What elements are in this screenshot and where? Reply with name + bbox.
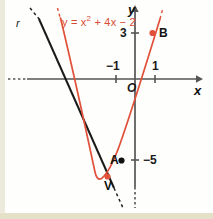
point-label-A: A xyxy=(110,154,119,166)
line-r-dashed-top xyxy=(30,8,40,20)
point-A-marker xyxy=(118,157,124,163)
equation-rhs: + 4x − 2 xyxy=(91,16,136,28)
origin-label: O xyxy=(127,82,136,94)
parabola-dashed-tail-right xyxy=(160,8,163,19)
graph-figure: y = x2 + 4x − 2 y x O −1 1 3 −5 A B V r xyxy=(0,0,213,219)
equation-lhs: y = x xyxy=(62,16,87,28)
x-axis-label: x xyxy=(194,84,201,97)
line-r-dashed-bottom xyxy=(114,188,123,208)
point-B-marker xyxy=(149,30,155,36)
y-axis-label: y xyxy=(128,3,135,16)
x-axis-arrow xyxy=(196,75,203,82)
point-label-B: B xyxy=(159,27,168,39)
point-label-V: V xyxy=(104,180,112,192)
x-tick-label-1: 1 xyxy=(152,60,159,72)
line-r xyxy=(39,19,114,188)
x-tick-label-minus1: −1 xyxy=(106,60,120,72)
y-tick-label-3: 3 xyxy=(120,27,127,39)
line-label-r: r xyxy=(16,18,20,29)
y-tick-label-minus5: −5 xyxy=(143,154,157,166)
